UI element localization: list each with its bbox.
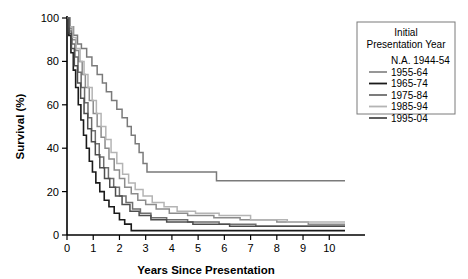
y-axis-title: Survival (%) [14,93,26,159]
x-tick-label: 5 [195,242,201,254]
y-tick-label: 80 [47,55,59,67]
legend-label: 1965-74 [391,78,428,89]
curve-1965-74 [67,18,345,231]
x-tick-label: 10 [323,242,335,254]
x-tick-label: 0 [64,242,70,254]
x-tick-label: 9 [300,242,306,254]
curve-1975-84 [67,18,345,226]
x-tick-label: 7 [248,242,254,254]
x-tick-label: 3 [143,242,149,254]
chart-canvas: 020406080100012345678910Years Since Pres… [0,0,468,279]
legend-title-line: Initial [394,27,417,38]
x-axis-title: Years Since Presentation [137,264,274,276]
legend-label: 1985-94 [391,101,428,112]
x-tick-label: 1 [90,242,96,254]
curve-1985-94 [67,18,345,222]
legend-label: N.A. 1944-54 [391,55,450,66]
y-tick-label: 20 [47,186,59,198]
legend-title-line: Presentation Year [367,39,447,50]
y-tick-label: 60 [47,99,59,111]
y-tick-label: 100 [41,12,59,24]
survival-chart: 020406080100012345678910Years Since Pres… [0,0,468,279]
x-tick-label: 2 [116,242,122,254]
x-tick-label: 6 [221,242,227,254]
y-tick-label: 0 [53,229,59,241]
x-tick-label: 4 [169,242,175,254]
legend-label: 1975-84 [391,90,428,101]
y-tick-label: 40 [47,142,59,154]
curve-1955-64 [67,18,345,224]
legend-label: 1955-64 [391,67,428,78]
curve-1995-04 [67,18,345,226]
legend-label: 1995-04 [391,113,428,124]
x-tick-label: 8 [274,242,280,254]
